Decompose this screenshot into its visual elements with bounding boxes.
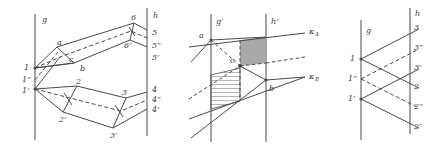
node-b-mid [264,78,267,81]
label-right-panel-1: 1 [350,54,355,63]
label-right-panel-2: 2 [413,82,419,91]
label-right-4: 4 [151,85,157,94]
edge-a-down-left [191,40,211,62]
figure-container: g h 1 1” 1’ 5 5” 5’ 4 4” 4’ a c b 6 6’ 2… [0,0,433,147]
node-c-mid [238,64,242,68]
lower-dashed-edge [35,89,147,111]
label-right-4-dprime: 4” [151,95,161,104]
label-3-prime: 3’ [110,131,118,140]
label-kappa-a: κ [308,27,315,36]
panel-middle: g’ h’ a c b κ A κ B [189,14,319,142]
lower-inner-edge [35,86,147,98]
label-a-mid: a [199,31,204,40]
label-right-panel-3-prime: 3’ [414,63,422,72]
label-kappa-a-sub: A [314,31,319,37]
label-kappa-b: κ [308,72,315,81]
label-right-panel-3-dprime: 3” [414,43,423,52]
lower-outer-edge [35,89,147,128]
label-a-left: a [57,38,62,47]
panel-left: g h 1 1” 1’ 5 5” 5’ 4 4” 4’ a c b 6 6’ 2… [22,8,161,140]
node-1-prime [34,88,37,91]
label-right-panel-1-dprime: 1” [348,74,357,83]
label-right-panel-1-prime: 1’ [348,94,356,103]
panel-right: g h 1 1” 1’ 3 3” 3’ 2 2” 2’ [348,8,423,140]
label-left-1: 1 [24,63,29,72]
label-right-panel-2-prime: 2’ [413,122,422,131]
label-line-g-left: g [42,15,47,24]
label-right-5-dprime: 5” [152,41,161,50]
label-line-g-prime: g’ [216,17,224,26]
cross-edge-lower [35,57,60,89]
label-2: 2 [75,77,81,86]
label-6-prime: 6’ [124,41,132,50]
label-left-1-dprime: 1” [22,75,31,84]
label-kappa-b-sub: B [314,76,319,82]
label-b-mid: b [269,84,274,93]
diagram-canvas: g h 1 1” 1’ 5 5” 5’ 4 4” 4’ a c b 6 6’ 2… [0,0,433,147]
node-1prime-right [359,97,362,100]
ray-kappa-b-line [189,77,305,119]
label-b-left: b [80,64,85,73]
label-right-4-prime: 4’ [151,105,160,114]
label-right-5: 5 [152,28,157,37]
label-2-prime: 2’ [58,115,67,124]
label-line-h-left: h [153,11,158,20]
label-line-h-prime: h’ [271,17,279,26]
node-1-right [359,57,362,60]
label-left-1-prime: 1’ [22,86,30,95]
label-right-5-prime: 5’ [152,53,160,62]
shaded-quad-region [240,37,266,66]
label-line-h-right: h [415,9,420,18]
node-1 [34,67,37,70]
node-a-mid [209,38,212,41]
label-3: 3 [122,88,127,97]
label-c-mid: c [230,56,235,65]
upper-tick-mark [129,27,135,36]
label-6: 6 [131,13,136,22]
label-line-g-right: g [366,26,371,35]
edge-c-to-b [240,66,266,80]
lower-right-connector [113,98,126,128]
dashed-mid-ray [266,57,305,63]
label-right-panel-3: 3 [414,23,419,32]
label-right-panel-2-dprime: 2” [413,102,423,111]
label-c-left: c [69,55,74,64]
